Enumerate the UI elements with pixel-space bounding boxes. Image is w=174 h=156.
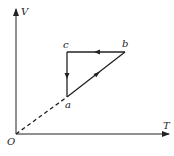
point-c-label: c xyxy=(63,39,69,50)
origin-label: O xyxy=(7,136,15,147)
point-b-label: b xyxy=(122,38,128,49)
point-a-label: a xyxy=(65,99,71,110)
arrow-c-a-icon xyxy=(65,73,70,79)
vt-diagram: V T O c b a xyxy=(0,0,174,156)
v-axis-label: V xyxy=(21,6,30,17)
dashed-extension-line xyxy=(16,97,67,134)
arrow-b-c-icon xyxy=(94,50,100,55)
t-axis-label: T xyxy=(163,120,171,131)
